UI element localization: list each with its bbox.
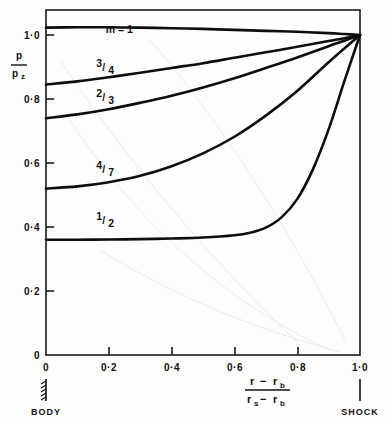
x-tick-label: 0	[43, 362, 49, 373]
y-axis-title-denominator: p	[12, 68, 18, 79]
curve-1-2	[46, 35, 360, 240]
curve-label-1-over-2: 1/2	[96, 210, 114, 229]
x-axis-tick-labels: 0 0·2 0·4 0·6 0·8 1·0	[43, 362, 368, 373]
x-axis-title-den-r-subscript: s	[254, 399, 259, 408]
curve-label-4-over-7: 4/7	[96, 159, 114, 178]
plot-frame	[46, 10, 360, 355]
x-axis-title-den-r: r	[247, 393, 252, 405]
x-tick-label: 0·2	[101, 362, 117, 373]
curve-label-slash: /	[102, 61, 105, 73]
y-tick-label: 0·8	[24, 94, 40, 105]
y-tick-label: 0·4	[24, 222, 40, 233]
shock-boundary-label: SHOCK	[341, 407, 379, 417]
curve-label-slash: /	[102, 214, 105, 226]
y-tick-label: 0	[34, 350, 40, 361]
curve-label-3-over-4: 3/4	[96, 57, 114, 76]
x-axis-ticks	[109, 347, 298, 355]
body-boundary-marker	[41, 379, 46, 401]
x-axis-title-num-r: r	[250, 375, 255, 387]
curve-m-1	[46, 27, 360, 35]
curve-label-denominator: 2	[108, 217, 114, 229]
x-tick-label: 0·8	[290, 362, 306, 373]
curve-label-denominator: 3	[108, 94, 114, 106]
y-axis-title-denominator-subscript: z	[21, 72, 25, 81]
y-tick-label: 0·2	[24, 286, 40, 297]
chart-canvas: 1·0 0·8 0·6 0·4 0·2 0 p p z 0 0·2 0·4 0·…	[0, 0, 391, 422]
pressure-profile-figure: 1·0 0·8 0·6 0·4 0·2 0 p p z 0 0·2 0·4 0·…	[0, 0, 391, 422]
curve-label-denominator: 4	[108, 64, 114, 76]
x-axis-title-num-rb: r	[273, 375, 278, 387]
curve-label-denominator: 7	[108, 166, 114, 178]
x-tick-label: 0·6	[227, 362, 243, 373]
body-boundary-label: BODY	[31, 407, 61, 417]
curve-label-m-equals-1: m = 1	[106, 23, 133, 35]
curve-label-group: m = 13/42/34/71/2	[96, 23, 133, 229]
x-tick-label: 0·4	[164, 362, 180, 373]
y-axis-title: p p z	[11, 50, 27, 81]
x-axis-title-num-rb-subscript: b	[280, 381, 285, 390]
x-axis-title-den-minus: −	[260, 393, 266, 405]
curve-label-slash: /	[102, 91, 105, 103]
y-tick-label: 1·0	[24, 30, 40, 41]
x-axis-title-num-minus: −	[260, 375, 266, 387]
x-axis-title: r − r b r s − r b	[245, 375, 290, 408]
y-tick-label: 0·6	[24, 158, 40, 169]
y-axis-ticks	[46, 35, 54, 291]
curve-label-2-over-3: 2/3	[96, 87, 114, 106]
curve-label-slash: /	[102, 163, 105, 175]
x-axis-title-den-rb-subscript: b	[280, 399, 285, 408]
y-axis-title-numerator: p	[16, 50, 22, 61]
y-axis-tick-labels: 1·0 0·8 0·6 0·4 0·2 0	[24, 30, 40, 361]
curve-group	[46, 27, 360, 240]
x-tick-label: 1·0	[352, 362, 368, 373]
x-axis-title-den-rb: r	[273, 393, 278, 405]
